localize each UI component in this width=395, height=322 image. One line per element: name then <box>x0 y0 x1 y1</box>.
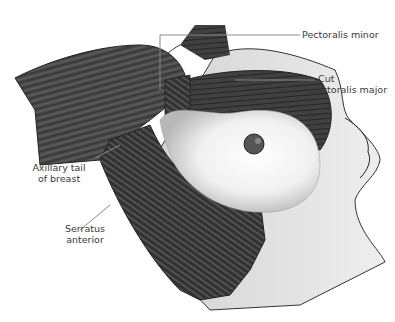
label-serratus-anterior-line2: anterior <box>60 234 110 245</box>
label-pectoralis-minor: Pectoralis minor <box>302 29 379 40</box>
label-serratus-anterior-line1: Serratus <box>60 223 110 234</box>
nipple-areola <box>244 134 264 154</box>
anatomy-illustration <box>0 0 395 322</box>
label-axillary-tail-line2: of breast <box>28 173 90 184</box>
label-cut-pectoralis-major-line1: Cut <box>318 73 334 84</box>
label-cut-pectoralis-major-line2: pectoralis major <box>310 84 387 95</box>
neck-muscles <box>180 25 230 60</box>
label-axillary-tail-line1: Axillary tail <box>28 162 90 173</box>
